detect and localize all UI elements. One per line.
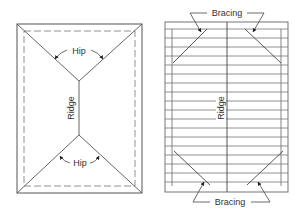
brace-bottom-left [174,151,210,185]
ridge-label: Ridge [216,96,226,120]
hip-line-bottom-right [79,135,142,193]
hip-line-top-right [79,24,142,81]
arrow-icon [60,156,70,163]
brace-bottom-right [247,151,283,185]
brace-top-right [245,29,281,63]
hip-label-top: Hip [72,46,86,56]
arrow-icon [91,50,103,59]
arrow-icon [55,50,67,59]
ridge-label: Ridge [66,96,76,120]
hip-label-bottom: Hip [73,158,87,168]
brace-top-left [173,29,207,63]
hip-line-bottom-left [17,135,79,193]
roof-framing-diagram: Hip Hip Ridge [0,0,308,220]
bracing-label-top: Bracing [212,8,243,18]
roof-outline [165,22,288,192]
hip-roof-plan: Hip Hip Ridge [17,24,142,193]
hip-line-top-left [17,24,79,81]
bracing-label-bottom: Bracing [215,197,246,207]
arrow-icon [90,156,99,163]
bracing-plan: Bracing Bracing Ridge [165,8,288,207]
